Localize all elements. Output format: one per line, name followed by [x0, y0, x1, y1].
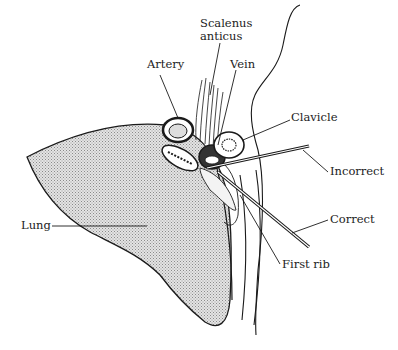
leader-artery: [160, 75, 178, 118]
label-scalenus: Scalenus anticus: [200, 17, 252, 43]
leader-scalenus: [210, 43, 220, 95]
label-lung: Lung: [21, 219, 51, 232]
label-incorrect: Incorrect: [330, 165, 384, 178]
leader-correct: [292, 220, 328, 233]
leader-clavicle: [243, 120, 290, 140]
artery: [163, 118, 193, 142]
clavicle: [214, 132, 244, 158]
label-first-rib: First rib: [282, 258, 330, 271]
label-artery: Artery: [147, 58, 184, 71]
rib-line-2: [254, 170, 260, 325]
anatomy-diagram: Scalenus anticus Artery Vein Clavicle In…: [0, 0, 398, 350]
label-vein: Vein: [230, 58, 255, 71]
neck-outline: [251, 5, 300, 335]
label-correct: Correct: [330, 213, 375, 226]
label-clavicle: Clavicle: [291, 111, 337, 124]
leader-incorrect: [303, 150, 328, 172]
label-scalenus-line2: anticus: [200, 30, 252, 43]
